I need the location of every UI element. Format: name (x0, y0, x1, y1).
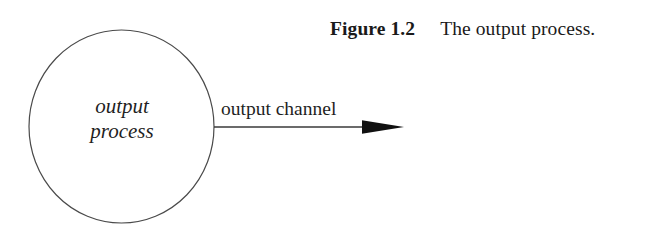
output-channel-arrow-head (362, 120, 404, 133)
process-node-label-line-2: process (29, 119, 215, 144)
figure-container: Figure 1.2The output process. output pro… (0, 0, 646, 245)
process-node-label: output process (29, 94, 215, 144)
process-node-label-line-1: output (29, 94, 215, 119)
output-channel-label: output channel (221, 99, 336, 119)
